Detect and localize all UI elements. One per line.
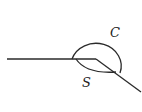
label-s: S: [82, 76, 91, 89]
large-arc-c: [72, 43, 121, 73]
label-c: C: [110, 26, 120, 39]
angle-diagram: [0, 0, 142, 112]
diagonal-ray: [96, 59, 141, 92]
small-arc-s: [76, 59, 116, 72]
